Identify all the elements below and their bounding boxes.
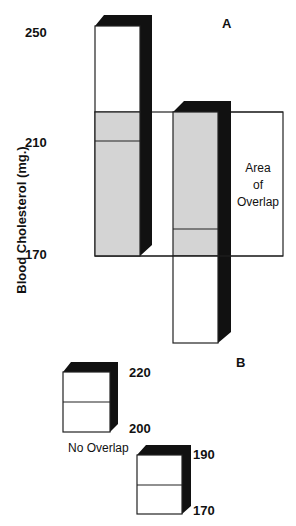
box1-bottom-value: 200 bbox=[129, 421, 151, 436]
bar-b-front-lower bbox=[173, 256, 218, 343]
bar-a-front-overlap bbox=[95, 112, 140, 256]
overlap-label-line2: of bbox=[253, 178, 264, 192]
box-no-overlap-2 bbox=[137, 445, 191, 514]
box2-top-value: 190 bbox=[193, 447, 215, 462]
label-b: B bbox=[236, 355, 245, 370]
box1-top-value: 220 bbox=[129, 365, 151, 380]
y-axis-label: Blood Cholesterol (mg.) bbox=[14, 146, 29, 293]
bar-a bbox=[95, 15, 152, 256]
bar-b-front-overlap bbox=[173, 112, 218, 256]
box-no-overlap-1 bbox=[63, 362, 118, 432]
bar-b bbox=[173, 101, 231, 343]
y-tick-170: 170 bbox=[25, 247, 47, 262]
overlap-label-line1: Area bbox=[245, 161, 271, 175]
y-tick-250: 250 bbox=[25, 25, 47, 40]
cholesterol-overlap-diagram: Blood Cholesterol (mg.) 250 210 170 Area… bbox=[0, 0, 296, 526]
label-a: A bbox=[222, 16, 232, 31]
no-overlap-label: No Overlap bbox=[68, 441, 129, 455]
box2-bottom-value: 170 bbox=[193, 503, 215, 518]
y-tick-210: 210 bbox=[25, 135, 47, 150]
bar-a-front-upper bbox=[95, 26, 140, 112]
overlap-label-line3: Overlap bbox=[237, 195, 279, 209]
